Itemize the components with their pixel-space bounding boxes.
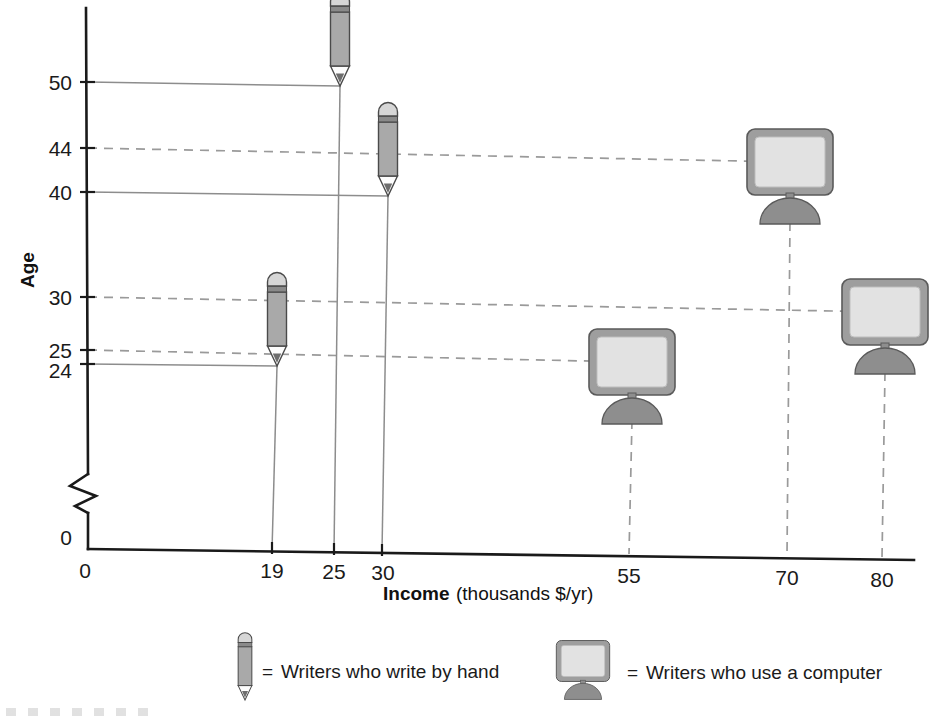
- legend-label-writers-using-computer: Writers who use a computer: [646, 662, 883, 683]
- y-axis-title: Age: [17, 252, 38, 288]
- axes: [70, 8, 914, 560]
- legend-label-writers-by-hand: Writers who write by hand: [281, 661, 499, 682]
- y-tick-label-44: 44: [49, 137, 73, 160]
- data-point-computer-70-44[interactable]: [747, 129, 833, 224]
- x-tick-label-30: 30: [371, 561, 394, 584]
- pencil-icon: [238, 633, 252, 700]
- data-point-computer-80-30[interactable]: [842, 279, 928, 374]
- series-writers-using-computer: [589, 129, 928, 424]
- guide-h-age-24: [88, 364, 277, 366]
- y-tick-label-30: 30: [49, 286, 72, 309]
- guide-v-income-19: [272, 366, 277, 551]
- chart-figure: 50 44 40 30 25 24 0 0 19 25 30 55 70 80 …: [0, 0, 931, 717]
- x-tick-label-55: 55: [617, 564, 640, 587]
- guide-v-income-70: [787, 222, 790, 556]
- y-axis-line: [86, 8, 88, 474]
- x-axis-title-units: (thousands $/yr): [456, 583, 593, 604]
- computer-icon: [556, 641, 609, 700]
- x-tick-label-70: 70: [775, 566, 798, 589]
- legend-equals-hand: =: [262, 661, 273, 682]
- x-tick-label-25: 25: [322, 560, 345, 583]
- y-tick-label-40: 40: [49, 181, 72, 204]
- x-axis-line: [88, 549, 914, 560]
- y-tick-labels: 50 44 40 30 25 24 0: [49, 71, 73, 549]
- legend-item-writers-using-computer[interactable]: = Writers who use a computer: [556, 641, 883, 700]
- guide-h-age-25: [88, 350, 632, 362]
- series-writers-by-hand: [268, 0, 398, 366]
- data-point-pencil-25-50[interactable]: [331, 0, 350, 86]
- data-point-pencil-30-40[interactable]: [379, 103, 398, 197]
- guide-h-age-44: [88, 148, 790, 162]
- guide-v-income-80: [882, 372, 885, 558]
- legend-equals-computer: =: [627, 662, 638, 683]
- x-axis-title-bold: Income: [383, 583, 450, 604]
- x-tick-label-19: 19: [260, 559, 283, 582]
- guide-v-income-55: [629, 420, 632, 554]
- guide-h-age-50: [88, 82, 340, 86]
- guide-h-age-30: [88, 297, 885, 312]
- guide-v-income-30: [382, 196, 388, 552]
- legend: = Writers who write by hand = Writers wh…: [238, 633, 883, 700]
- scatter-plot-canvas: 50 44 40 30 25 24 0 0 19 25 30 55 70 80 …: [0, 0, 931, 717]
- guide-v-income-25: [334, 86, 340, 552]
- y-axis-break-symbol: [70, 474, 96, 513]
- x-tick-label-0: 0: [79, 559, 91, 582]
- x-axis-title: Income (thousands $/yr): [383, 583, 593, 604]
- page-edge-artifact: [6, 708, 156, 716]
- data-point-computer-55-25[interactable]: [589, 329, 675, 424]
- x-tick-label-80: 80: [870, 568, 893, 591]
- y-tick-label-0: 0: [60, 526, 72, 549]
- y-tick-label-24: 24: [49, 359, 73, 382]
- guide-h-age-40: [88, 192, 388, 196]
- data-point-pencil-19-24[interactable]: [268, 273, 287, 367]
- legend-item-writers-by-hand[interactable]: = Writers who write by hand: [238, 633, 499, 700]
- y-tick-label-50: 50: [49, 71, 72, 94]
